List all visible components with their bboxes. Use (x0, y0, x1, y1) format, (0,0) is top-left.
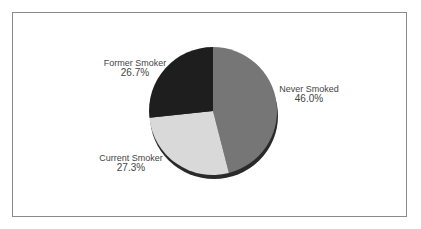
pie-chart (0, 0, 421, 229)
label-pct: 26.7% (100, 68, 170, 78)
label-never-smoked: Never Smoked 46.0% (274, 84, 344, 104)
label-pct: 46.0% (274, 94, 344, 104)
label-former-smoker: Former Smoker 26.7% (100, 58, 170, 78)
label-current-smoker: Current Smoker 27.3% (96, 153, 166, 173)
label-pct: 27.3% (96, 163, 166, 173)
